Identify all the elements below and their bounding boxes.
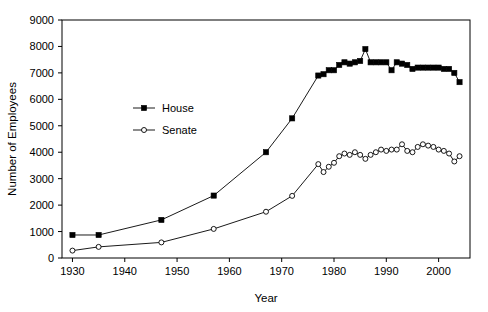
data-point <box>70 248 75 253</box>
y-tick-label: 4000 <box>30 146 54 158</box>
data-point <box>420 65 425 70</box>
data-point <box>159 217 164 222</box>
legend-item-house: House <box>133 102 194 114</box>
data-point <box>363 46 368 51</box>
data-point <box>399 61 404 66</box>
data-point <box>96 232 101 237</box>
data-point <box>358 58 363 63</box>
data-point <box>96 244 101 249</box>
data-point <box>321 170 326 175</box>
y-tick-label: 8000 <box>30 40 54 52</box>
data-point <box>431 144 436 149</box>
y-tick-label: 1000 <box>30 226 54 238</box>
data-point <box>415 144 420 149</box>
data-point <box>316 73 321 78</box>
legend-label: House <box>162 102 194 114</box>
y-tick-label: 7000 <box>30 67 54 79</box>
y-axis-title: Number of Employees <box>6 82 18 196</box>
legend-marker-circle <box>142 128 147 133</box>
x-tick-label: 1930 <box>60 265 84 277</box>
data-point <box>211 226 216 231</box>
data-point <box>378 60 383 65</box>
data-point <box>436 147 441 152</box>
data-point <box>290 193 295 198</box>
data-point <box>368 152 373 157</box>
data-point <box>332 160 337 165</box>
data-point <box>373 60 378 65</box>
data-point <box>394 147 399 152</box>
data-point <box>326 164 331 169</box>
data-point <box>159 240 164 245</box>
data-point <box>342 151 347 156</box>
data-point <box>384 60 389 65</box>
data-point <box>368 60 373 65</box>
data-point <box>452 159 457 164</box>
y-tick-label: 9000 <box>30 14 54 26</box>
series-senate <box>70 142 462 253</box>
data-point <box>405 62 410 67</box>
data-point <box>415 65 420 70</box>
data-point <box>337 154 342 159</box>
data-point <box>400 142 405 147</box>
data-point <box>352 60 357 65</box>
data-point <box>326 68 331 73</box>
data-point <box>410 66 415 71</box>
data-point <box>352 150 357 155</box>
data-point <box>264 209 269 214</box>
x-tick-label: 1970 <box>269 265 293 277</box>
data-point <box>436 65 441 70</box>
data-point <box>426 65 431 70</box>
plot-frame <box>62 20 470 258</box>
data-point <box>342 60 347 65</box>
series-line <box>72 144 459 250</box>
data-point <box>405 148 410 153</box>
data-point <box>384 148 389 153</box>
x-tick-label: 1960 <box>217 265 241 277</box>
data-point <box>373 150 378 155</box>
data-point <box>290 116 295 121</box>
legend-item-senate: Senate <box>133 124 197 136</box>
data-point <box>452 70 457 75</box>
data-point <box>263 150 268 155</box>
data-point <box>457 154 462 159</box>
data-point <box>457 80 462 85</box>
y-axis-ticks: 0100020003000400050006000700080009000 <box>30 14 62 264</box>
data-point <box>337 62 342 67</box>
y-tick-label: 5000 <box>30 120 54 132</box>
data-point <box>316 162 321 167</box>
data-point <box>363 156 368 161</box>
plot-border <box>62 20 470 258</box>
data-point <box>410 150 415 155</box>
data-point <box>347 152 352 157</box>
y-tick-label: 2000 <box>30 199 54 211</box>
x-tick-label: 1940 <box>113 265 137 277</box>
legend-label: Senate <box>162 124 197 136</box>
y-tick-label: 3000 <box>30 173 54 185</box>
data-point <box>441 66 446 71</box>
data-point <box>446 66 451 71</box>
x-axis-title: Year <box>254 292 277 304</box>
series-group <box>70 46 462 253</box>
data-point <box>70 232 75 237</box>
x-tick-label: 2000 <box>426 265 450 277</box>
data-point <box>331 68 336 73</box>
data-point <box>347 61 352 66</box>
x-axis-ticks: 19301940195019601970198019902000 <box>60 258 451 277</box>
data-point <box>358 152 363 157</box>
legend-marker-square <box>141 105 146 110</box>
x-tick-label: 1990 <box>374 265 398 277</box>
data-point <box>441 148 446 153</box>
data-point <box>211 193 216 198</box>
data-point <box>447 151 452 156</box>
data-point <box>389 68 394 73</box>
y-tick-label: 0 <box>48 252 54 264</box>
data-point <box>389 147 394 152</box>
x-tick-label: 1950 <box>165 265 189 277</box>
data-point <box>394 60 399 65</box>
data-point <box>420 142 425 147</box>
x-tick-label: 1980 <box>322 265 346 277</box>
data-point <box>426 143 431 148</box>
data-point <box>431 65 436 70</box>
data-point <box>321 72 326 77</box>
y-tick-label: 6000 <box>30 93 54 105</box>
